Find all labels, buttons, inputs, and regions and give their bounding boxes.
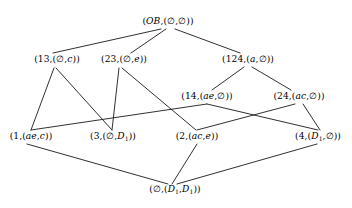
node-23: (23,(∅,e)) — [100, 55, 148, 65]
edge-24-4 — [303, 104, 320, 130]
edge-13-3 — [56, 68, 112, 130]
node-24: (24,(ac,∅)) — [272, 92, 325, 102]
edge-23-3 — [112, 68, 119, 130]
edge-OB-124 — [175, 29, 240, 53]
node-OB: (OB,(∅,∅)) — [141, 17, 194, 27]
node-BOT: (∅,(D1,D1)) — [148, 185, 201, 195]
node-4: (4,(D1,∅)) — [294, 132, 342, 142]
node-14: (14,(ae,∅)) — [180, 92, 234, 102]
edge-14-4 — [207, 104, 318, 130]
node-124: (124,(a,∅)) — [221, 55, 275, 65]
node-2: (2,(ac,e)) — [175, 132, 220, 142]
edge-OB-23 — [131, 29, 166, 53]
node-1: (1,(ae,c)) — [9, 132, 54, 142]
edge-4-BOT — [177, 144, 317, 184]
edge-13-1 — [31, 68, 54, 130]
diagram-canvas: (OB,(∅,∅))(13,(∅,c))(23,(∅,e))(124,(a,∅)… — [0, 0, 352, 208]
edge-2-BOT — [172, 144, 197, 184]
edge-1-BOT — [27, 144, 168, 184]
edge-OB-13 — [53, 29, 161, 53]
edge-124-24 — [252, 67, 291, 90]
edge-124-14 — [212, 67, 244, 90]
node-13: (13,(∅,c)) — [33, 55, 81, 65]
edges-layer — [0, 0, 352, 208]
node-3: (3,(∅,D1)) — [89, 132, 137, 142]
edge-24-2 — [197, 104, 295, 130]
